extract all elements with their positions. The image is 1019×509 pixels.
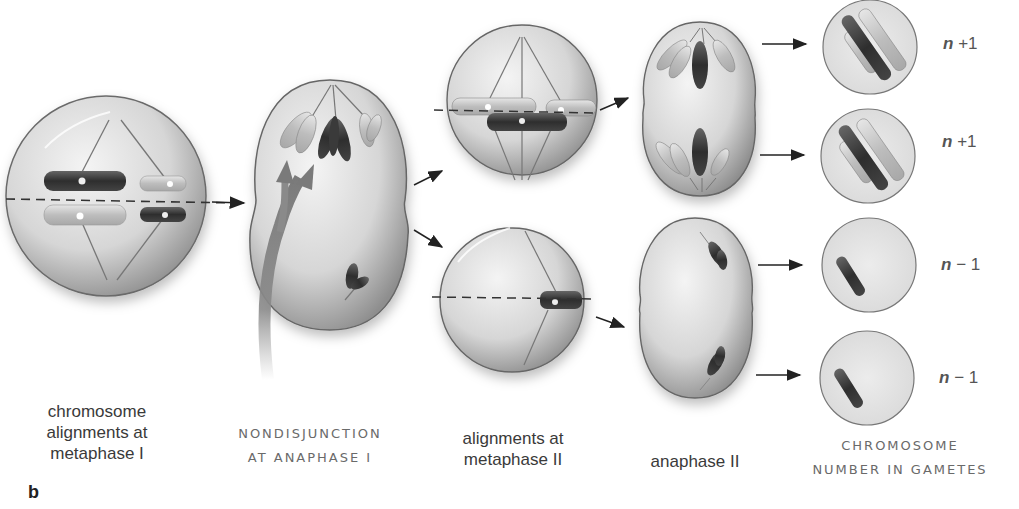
operator: − bbox=[954, 368, 964, 387]
label-line: NUMBER IN GAMETES bbox=[795, 458, 1005, 482]
label-line: AT ANAPHASE I bbox=[220, 446, 400, 470]
label-gametes: CHROMOSOME NUMBER IN GAMETES bbox=[795, 434, 1005, 482]
label-line: metaphase II bbox=[448, 449, 578, 470]
gamete-2-count-label: n +1 bbox=[942, 132, 977, 152]
metaphase-1-cell bbox=[6, 96, 244, 296]
label-line: metaphase I bbox=[22, 443, 172, 464]
arrow-icon bbox=[414, 230, 442, 247]
panel-letter: b bbox=[28, 482, 39, 503]
gamete-4-count-label: n − 1 bbox=[939, 368, 978, 388]
count-value: 1 bbox=[971, 255, 980, 274]
operator: − bbox=[956, 255, 966, 274]
arrow-icon bbox=[600, 98, 628, 110]
label-metaphase-2: alignments at metaphase II bbox=[448, 428, 578, 470]
label-line: anaphase II bbox=[635, 451, 755, 472]
operator: + bbox=[958, 34, 968, 53]
n-symbol: n bbox=[942, 132, 952, 151]
label-line: NONDISJUNCTION bbox=[220, 422, 400, 446]
metaphase-2-cell-bottom bbox=[432, 228, 596, 372]
gamete-4 bbox=[820, 331, 914, 425]
label-nondisjunction: NONDISJUNCTION AT ANAPHASE I bbox=[220, 422, 400, 470]
gamete-1 bbox=[823, 0, 917, 94]
gamete-3-count-label: n − 1 bbox=[941, 255, 980, 275]
n-symbol: n bbox=[939, 368, 949, 387]
count-value: 1 bbox=[967, 132, 976, 151]
arrow-icon bbox=[414, 171, 442, 185]
count-value: 1 bbox=[969, 368, 978, 387]
label-line: CHROMOSOME bbox=[795, 434, 1005, 458]
anaphase-2-cell-top bbox=[643, 22, 756, 196]
arrow-icon bbox=[596, 317, 624, 327]
count-value: 1 bbox=[968, 34, 977, 53]
label-metaphase-1: chromosome alignments at metaphase I bbox=[22, 401, 172, 464]
label-line: alignments at bbox=[22, 422, 172, 443]
operator: + bbox=[957, 132, 967, 151]
n-symbol: n bbox=[941, 255, 951, 274]
label-anaphase-2: anaphase II bbox=[635, 451, 755, 472]
label-line: chromosome bbox=[22, 401, 172, 422]
arrow-icon bbox=[212, 202, 244, 203]
anaphase-2-cell-bottom bbox=[639, 218, 752, 398]
gamete-2 bbox=[821, 109, 915, 203]
anaphase-1-cell bbox=[250, 80, 408, 380]
label-line: alignments at bbox=[448, 428, 578, 449]
gamete-1-count-label: n +1 bbox=[943, 34, 978, 54]
n-symbol: n bbox=[943, 34, 953, 53]
gamete-3 bbox=[822, 218, 916, 312]
metaphase-2-cell-top bbox=[434, 25, 598, 180]
